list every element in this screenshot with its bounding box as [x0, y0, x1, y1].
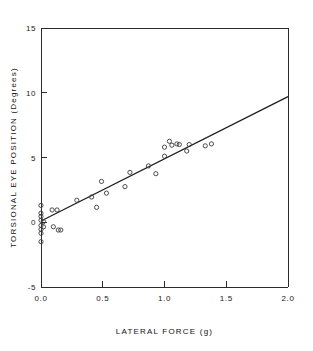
data-point-marker [75, 198, 79, 202]
y-axis-title: TORSIONAL EYE POSITION (Degrees) [9, 67, 18, 248]
data-point-marker [167, 139, 171, 143]
data-point-marker [55, 208, 59, 212]
y-tick-label-15: 15 [26, 24, 36, 33]
x-tick-label-1-5: 1.5 [220, 294, 233, 303]
y-tick-label-neg5: -5 [28, 283, 36, 292]
data-point-marker [162, 154, 166, 158]
y-tick-labels: 15 10 5 0 -5 [26, 24, 36, 292]
data-point-marker [170, 143, 174, 147]
x-tick-label-0-0: 0.0 [35, 294, 48, 303]
x-tick-labels: 0.0 0.5 1.0 1.5 2.0 [35, 294, 295, 303]
data-point-marker [51, 225, 55, 229]
plot-frame [41, 28, 288, 287]
data-point-marker [154, 172, 158, 176]
data-point-marker [104, 191, 108, 195]
data-point-marker [128, 170, 132, 174]
scatter-plot-svg: 15 10 5 0 -5 0.0 0.5 1.0 1.5 2.0 LATERAL… [0, 0, 313, 351]
data-point-marker [177, 142, 181, 146]
y-tick-label-10: 10 [26, 89, 36, 98]
data-points-layer [39, 139, 214, 244]
data-point-marker [185, 149, 189, 153]
y-tick-label-5: 5 [31, 154, 36, 163]
data-point-marker [94, 205, 98, 209]
x-tick-label-0-5: 0.5 [96, 294, 109, 303]
x-axis-ticks [41, 281, 288, 287]
data-point-marker [209, 142, 213, 146]
y-tick-label-0: 0 [31, 218, 36, 227]
data-point-marker [50, 208, 54, 212]
data-point-marker [203, 144, 207, 148]
y-axis-ticks [41, 28, 47, 287]
data-point-marker [162, 145, 166, 149]
data-point-marker [99, 179, 103, 183]
x-axis-title: LATERAL FORCE (g) [116, 327, 213, 336]
x-tick-label-1-0: 1.0 [158, 294, 171, 303]
data-point-marker [123, 185, 127, 189]
x-tick-label-2-0: 2.0 [282, 294, 295, 303]
chart-figure: 15 10 5 0 -5 0.0 0.5 1.0 1.5 2.0 LATERAL… [0, 0, 313, 351]
